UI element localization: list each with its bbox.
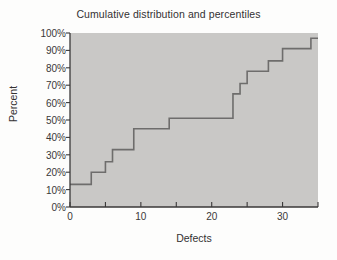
x-tick-label: 10: [135, 211, 146, 222]
chart-container: Cumulative distribution and percentiles …: [0, 0, 337, 260]
x-tick-label: 20: [206, 211, 217, 222]
x-tick-label: 0: [67, 211, 73, 222]
x-tick-label: 30: [277, 211, 288, 222]
x-axis-tick-labels: 0102030: [0, 0, 337, 260]
